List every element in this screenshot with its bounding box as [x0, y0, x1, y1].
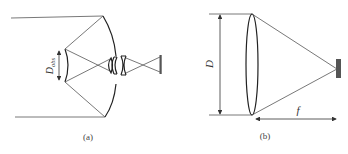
- ray-secondary-top: [65, 49, 112, 72]
- ray-secondary-bottom: [65, 58, 112, 82]
- panel-a: Dobs (a): [11, 16, 162, 142]
- primary-mirror-upper: [103, 16, 116, 56]
- svg-text:Dobs: Dobs: [44, 57, 56, 75]
- lens: [246, 14, 258, 115]
- incoming-ray-top: [11, 16, 103, 18]
- ray-primary-to-secondary-top: [65, 16, 103, 49]
- detector-b: [336, 59, 341, 78]
- secondary-mirror: [65, 49, 68, 82]
- primary-mirror-lower: [105, 84, 116, 117]
- ray-to-focus-top: [252, 14, 337, 69]
- panel-b: D f (b): [203, 14, 341, 141]
- ray-primary-to-secondary-bottom: [65, 82, 105, 117]
- detector-a: [160, 55, 162, 74]
- corrector-lens-group: [109, 56, 127, 75]
- caption-b: (b): [260, 131, 271, 141]
- ray-to-detector-bottom: [126, 57, 160, 73]
- svg-text:D: D: [203, 60, 215, 69]
- ray-to-focus-bottom: [252, 69, 337, 115]
- optics-diagram: Dobs (a) D f (b): [0, 0, 348, 154]
- aperture-label: D: [203, 60, 215, 69]
- caption-a: (a): [83, 132, 93, 142]
- focal-length-label: f: [296, 104, 301, 116]
- obscuration-label: Dobs: [44, 57, 56, 75]
